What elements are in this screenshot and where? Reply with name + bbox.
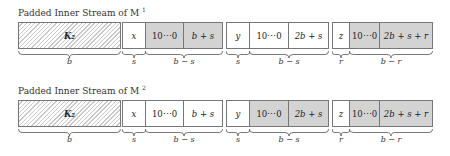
cell-label: K₂ (64, 109, 75, 119)
cell-label: z (339, 109, 343, 119)
key-block-k2: K₂ (18, 22, 121, 49)
brace-label: b − s (249, 57, 329, 66)
cell-label: 2b + s (295, 109, 323, 119)
brace-label: b − r (349, 57, 433, 66)
cell-label: b + s (192, 109, 214, 119)
cell-padding: 10⋯0 (145, 100, 184, 127)
cell-z: z (332, 100, 350, 127)
cell-padding: 10⋯0 (349, 100, 380, 127)
brace-label: s (122, 57, 146, 66)
brace-label: r (332, 135, 350, 144)
cell-label: K₂ (64, 31, 75, 41)
cell-label: y (236, 109, 241, 119)
cell-length: 2b + s + r (379, 22, 433, 49)
cell-label: x (132, 31, 137, 41)
brace-label: b − s (249, 135, 329, 144)
brace-label: b − s (145, 57, 223, 66)
brace-label: b (18, 135, 121, 144)
cell-x: x (122, 100, 146, 127)
cell-label: 2b + s + r (384, 109, 428, 119)
cell-padding: 10⋯0 (249, 100, 289, 127)
cell-y: y (226, 22, 250, 49)
brace-label: b − r (349, 135, 433, 144)
cell-label: 10⋯0 (152, 109, 177, 119)
stream-row-m2: Padded Inner Stream of M 2 K₂ x 10⋯0 b +… (0, 78, 450, 156)
cell-label: z (339, 31, 343, 41)
cell-label: y (236, 31, 241, 41)
title-text: Padded Inner Stream of M (18, 8, 139, 18)
brace-label: s (226, 57, 250, 66)
cell-length: 2b + s (288, 100, 329, 127)
cell-x: x (122, 22, 146, 49)
title-text: Padded Inner Stream of M (18, 86, 139, 96)
cell-length: b + s (183, 100, 223, 127)
cell-y: y (226, 100, 250, 127)
title-superscript: 1 (142, 6, 146, 13)
key-block-k2: K₂ (18, 100, 121, 127)
cell-label: 10⋯0 (256, 31, 281, 41)
cell-label: 10⋯0 (256, 109, 281, 119)
cell-padding: 10⋯0 (249, 22, 289, 49)
brace-label: b − s (145, 135, 223, 144)
brace-label: s (122, 135, 146, 144)
cell-label: x (132, 109, 137, 119)
stream-row-m1: Padded Inner Stream of M 1 K₂ x 10⋯0 b +… (0, 0, 450, 78)
cell-z: z (332, 22, 350, 49)
cell-label: 2b + s + r (384, 31, 428, 41)
cell-padding: 10⋯0 (349, 22, 380, 49)
cell-label: 10⋯0 (352, 109, 377, 119)
row-title: Padded Inner Stream of M 1 (18, 6, 146, 18)
cell-length: 2b + s (288, 22, 329, 49)
brace-label: r (332, 57, 350, 66)
brace-label: b (18, 57, 121, 66)
row-title: Padded Inner Stream of M 2 (18, 84, 146, 96)
cell-label: b + s (192, 31, 214, 41)
cell-padding: 10⋯0 (145, 22, 184, 49)
cell-label: 10⋯0 (352, 31, 377, 41)
cell-length: 2b + s + r (379, 100, 433, 127)
title-superscript: 2 (142, 84, 146, 91)
cell-length: b + s (183, 22, 223, 49)
brace-label: s (226, 135, 250, 144)
cell-label: 10⋯0 (152, 31, 177, 41)
cell-label: 2b + s (295, 31, 323, 41)
